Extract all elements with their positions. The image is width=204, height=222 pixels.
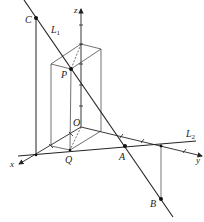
point-b [159, 197, 163, 201]
y-axis [81, 127, 202, 156]
label-l1: L1 [50, 24, 61, 37]
point-q [69, 149, 72, 152]
z-axis [79, 9, 83, 127]
label-p: P [60, 69, 67, 80]
diagram-canvas: z x y O C P Q A B L1 L2 [0, 0, 204, 222]
label-o: O [73, 117, 80, 128]
label-b: B [150, 198, 156, 209]
point-l2-x-intersect [35, 154, 38, 157]
point-l2-intersect [160, 145, 163, 148]
label-c: C [25, 14, 32, 25]
point-a [123, 144, 127, 148]
label-y: y [195, 155, 200, 165]
line-l1 [24, 0, 173, 217]
point-p [69, 67, 73, 71]
label-x: x [9, 159, 14, 169]
point-c [34, 16, 38, 20]
rectangular-box [51, 44, 101, 150]
label-z: z [73, 5, 78, 15]
label-l2: L2 [185, 128, 196, 141]
label-q: Q [65, 154, 73, 165]
label-a: A [118, 151, 126, 162]
